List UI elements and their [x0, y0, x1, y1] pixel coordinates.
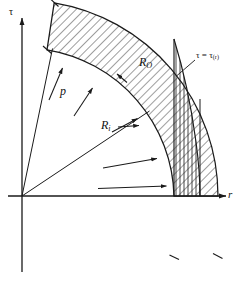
inner-radius-label: Ri: [101, 118, 111, 133]
pressure-label: p: [60, 84, 66, 99]
r-axis-label: r: [228, 188, 232, 200]
inner-radius-leader: [118, 126, 139, 128]
figure-canvas: τ r p RO Ri τ = τ(r): [0, 0, 245, 281]
inner-radius-subscript: i: [108, 124, 110, 133]
outer-radius-subscript: O: [146, 61, 152, 70]
outer-radius-label: RO: [139, 55, 152, 70]
diagram-svg: [0, 0, 245, 281]
stress-label-leader: [177, 60, 196, 76]
stress-function-label: τ = τ(r): [196, 50, 219, 60]
band-end-ticks-bottom: [170, 254, 223, 260]
tau-axis-label: τ: [9, 6, 13, 17]
stress-function-lhs: τ = τ: [196, 50, 213, 60]
stress-function-subscript: (r): [213, 54, 219, 60]
